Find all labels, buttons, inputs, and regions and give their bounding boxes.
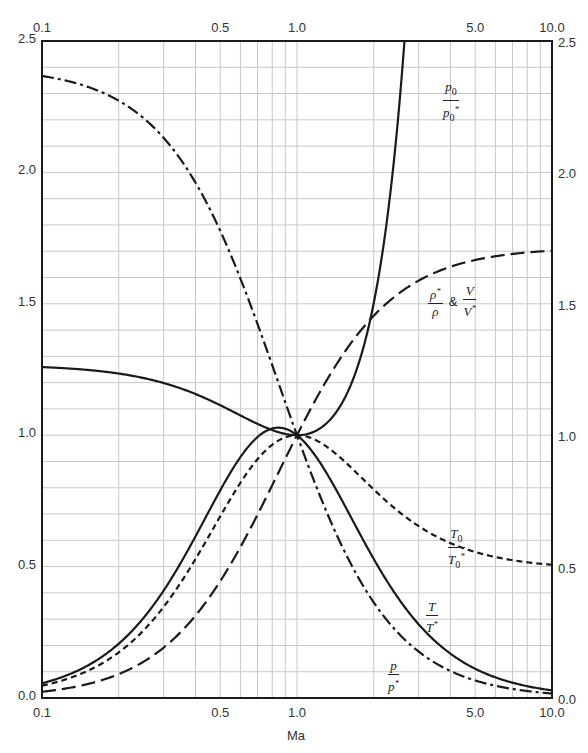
y-tick-right: 1.0	[558, 429, 576, 444]
y-tick-right: 1.5	[558, 298, 576, 313]
x-tick-top: 5.0	[466, 20, 484, 35]
y-tick-right: 2.0	[558, 166, 576, 181]
y-tick-right: 0.5	[558, 561, 576, 576]
x-tick-bottom: 0.5	[211, 705, 229, 720]
y-tick-left: 2.0	[18, 162, 36, 177]
label-t0-ratio: T0T0*	[448, 527, 465, 572]
x-tick-top: 10.0	[539, 20, 564, 35]
label-p-ratio: pp*	[388, 659, 399, 694]
y-tick-left: 2.5	[18, 31, 36, 46]
label-p0-ratio: p0p0*	[443, 80, 459, 125]
x-tick-bottom: 10.0	[539, 705, 564, 720]
y-tick-left: 0.5	[18, 557, 36, 572]
x-axis-label: Ma	[287, 728, 305, 743]
x-tick-top: 1.0	[288, 20, 306, 35]
label-density-velocity-ratio: ρ*ρ&VV*	[428, 284, 476, 319]
y-tick-left: 1.0	[18, 425, 36, 440]
y-tick-left: 0.0	[18, 688, 36, 703]
x-tick-top: 0.5	[211, 20, 229, 35]
grid-lines	[42, 41, 552, 698]
x-tick-bottom: 1.0	[288, 705, 306, 720]
y-tick-left: 1.5	[18, 294, 36, 309]
x-tick-bottom: 0.1	[33, 705, 51, 720]
y-tick-right: 0.0	[558, 692, 576, 707]
x-tick-bottom: 5.0	[466, 705, 484, 720]
rayleigh-flow-chart	[0, 0, 588, 753]
label-t-ratio: TT*	[426, 600, 438, 635]
y-tick-right: 2.5	[558, 35, 576, 50]
